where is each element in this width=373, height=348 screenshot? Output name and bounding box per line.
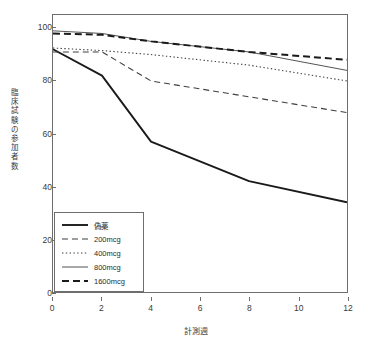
legend-item-偽薬[interactable]: 偽薬	[55, 218, 143, 232]
x-tick-label: 6	[188, 303, 212, 313]
x-tick-mark	[151, 297, 152, 301]
x-axis-label-text: 計測週	[184, 327, 208, 336]
y-tick-mark	[52, 293, 56, 294]
x-tick-label: 12	[336, 303, 360, 313]
x-tick-mark	[249, 297, 250, 301]
y-axis-label-char: 数	[6, 162, 22, 171]
x-tick-mark	[101, 297, 102, 301]
legend-box: 偽薬200mcg400mcg800mcg1600mcg	[54, 212, 144, 292]
legend-line-sample-icon	[61, 220, 89, 230]
legend-label: 200mcg	[94, 235, 121, 244]
legend-label: 400mcg	[94, 249, 121, 258]
x-tick-label: 0	[40, 303, 64, 313]
legend-item-400mcg[interactable]: 400mcg	[55, 246, 143, 260]
x-tick-label: 8	[237, 303, 261, 313]
x-tick-mark	[348, 297, 349, 301]
series-line-偽薬	[53, 49, 347, 202]
line-chart-figure: 臨床試験の参加者数 020406080100 024681012 計測週 偽薬2…	[0, 0, 373, 348]
y-tick-label: 60	[26, 129, 52, 139]
x-axis-label: 計測週	[0, 325, 373, 336]
legend-label: 800mcg	[94, 263, 121, 272]
series-line-800mcg	[53, 31, 347, 71]
legend-item-1600mcg[interactable]: 1600mcg	[55, 274, 143, 288]
legend-item-800mcg[interactable]: 800mcg	[55, 260, 143, 274]
y-axis-ticks: 020406080100	[24, 0, 52, 348]
series-line-200mcg	[53, 52, 347, 113]
y-axis-label-char: 者	[6, 152, 22, 161]
y-axis-label-char: 加	[6, 143, 22, 152]
legend-line-sample-icon	[61, 248, 89, 258]
y-tick-label: 20	[26, 235, 52, 245]
y-axis-label: 臨床試験の参加者数	[6, 88, 22, 171]
x-tick-label: 2	[89, 303, 113, 313]
legend-item-200mcg[interactable]: 200mcg	[55, 232, 143, 246]
y-axis-label-char: 臨	[6, 88, 22, 97]
series-line-1600mcg	[53, 33, 347, 59]
legend-line-sample-icon	[61, 234, 89, 244]
x-tick-mark	[52, 297, 53, 301]
y-tick-label: 100	[26, 22, 52, 32]
x-tick-mark	[200, 297, 201, 301]
x-tick-mark	[299, 297, 300, 301]
x-tick-label: 4	[139, 303, 163, 313]
legend-line-sample-icon	[61, 276, 89, 286]
y-axis-label-char: 参	[6, 134, 22, 143]
legend-label: 偽薬	[94, 220, 108, 231]
y-tick-label: 40	[26, 182, 52, 192]
x-tick-label: 10	[287, 303, 311, 313]
legend-label: 1600mcg	[94, 277, 125, 286]
y-axis-label-char: 試	[6, 106, 22, 115]
y-axis-label-char: の	[6, 125, 22, 134]
y-axis-label-char: 験	[6, 116, 22, 125]
y-tick-label: 80	[26, 75, 52, 85]
x-axis-ticks: 024681012	[0, 297, 373, 313]
legend-line-sample-icon	[61, 262, 89, 272]
series-line-400mcg	[53, 48, 347, 81]
